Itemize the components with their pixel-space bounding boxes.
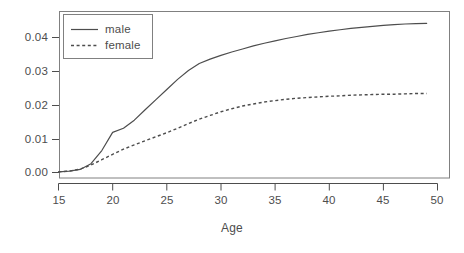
x-tick-label-50: 50 xyxy=(422,194,452,206)
x-tick-label-35: 35 xyxy=(260,194,290,206)
y-tick-label-003: 0.03 xyxy=(4,65,48,77)
x-tick-label-40: 40 xyxy=(314,194,344,206)
x-tick-label-25: 25 xyxy=(152,194,182,206)
legend-label-male: male xyxy=(105,23,131,35)
x-tick-label-45: 45 xyxy=(368,194,398,206)
chart-figure: 0.04 0.03 0.02 0.01 0.00 15 20 25 30 35 … xyxy=(0,0,464,253)
plot-area xyxy=(0,0,464,253)
y-tick-label-000: 0.00 xyxy=(4,166,48,178)
x-axis-title: Age xyxy=(0,221,464,235)
x-tick-label-15: 15 xyxy=(44,194,74,206)
x-tick-label-20: 20 xyxy=(98,194,128,206)
legend-label-female: female xyxy=(105,39,141,51)
y-tick-label-001: 0.01 xyxy=(4,133,48,145)
y-axis-ticks xyxy=(52,38,59,173)
x-axis-ticks xyxy=(59,184,438,191)
y-tick-label-004: 0.04 xyxy=(4,31,48,43)
x-tick-label-30: 30 xyxy=(206,194,236,206)
series-line-female xyxy=(59,94,427,172)
y-tick-label-002: 0.02 xyxy=(4,99,48,111)
legend-box xyxy=(64,15,153,59)
